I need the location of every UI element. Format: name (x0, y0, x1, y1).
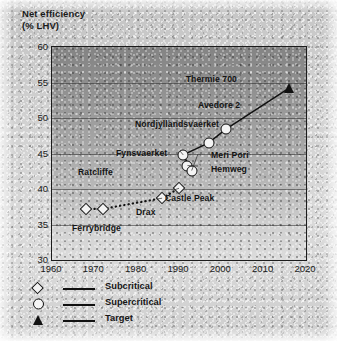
x-axis-tick-labels: 1960197019801990200020102020 (51, 263, 305, 277)
y-tick-label-45: 45 (2, 147, 48, 158)
diamond-marker-icon (31, 282, 44, 295)
y-tick-label-55: 55 (2, 76, 48, 87)
label-thermie-700: Thermie 700 (186, 74, 237, 84)
plot-area: FerrybridgeRatcliffeDraxCastle PeakFynsv… (51, 46, 307, 261)
y-tick-label-35: 35 (2, 218, 48, 229)
x-tick-label-1990: 1990 (167, 263, 188, 274)
leader-line-fynsvaerket (180, 151, 183, 155)
circle-legend-icon (33, 299, 47, 310)
label-avedore-2: Avedore 2 (198, 100, 240, 110)
diamond-legend-icon (33, 284, 47, 293)
x-tick-label-1970: 1970 (83, 263, 104, 274)
y-tick-label-50: 50 (2, 112, 48, 123)
chart-figure: Net efficiency (% LHV) 30354045505560 Fe… (0, 0, 337, 341)
legend-item-supercritical: Supercritical (33, 296, 223, 312)
y-axis-title-line-2: (% LHV) (22, 20, 59, 31)
legend-line-swatch (63, 320, 95, 322)
x-tick-label-1980: 1980 (125, 263, 146, 274)
leader-line-drax (157, 198, 162, 199)
leader-line-castle-peak (174, 188, 179, 190)
legend-label: Subcritical (105, 281, 153, 291)
circle-marker-icon (33, 299, 44, 310)
triangle-marker-icon (33, 315, 43, 325)
x-tick-label-2000: 2000 (210, 263, 231, 274)
chart-legend: SubcriticalSupercriticalTarget (33, 280, 223, 328)
label-ferrybridge: Ferrybridge (72, 223, 121, 233)
label-hemweg: Hemweg (211, 164, 247, 174)
leader-line-meri-pori (192, 154, 198, 171)
x-tick-label-2010: 2010 (252, 263, 273, 274)
label-fynsvaerket: Fynsvaerket (116, 148, 167, 158)
label-nordjyllandsvaerket: Nordjyllandsvaerket (135, 119, 219, 129)
x-tick-label-1960: 1960 (40, 263, 61, 274)
label-castle-peak: Castle Peak (165, 193, 214, 203)
x-tick-label-2020: 2020 (294, 263, 315, 274)
label-drax: Drax (136, 207, 156, 217)
legend-item-subcritical: Subcritical (33, 280, 223, 296)
legend-label: Target (105, 313, 133, 323)
legend-label: Supercritical (105, 297, 161, 307)
y-axis-tick-labels: 30354045505560 (0, 46, 48, 259)
legend-line-swatch (63, 304, 95, 306)
legend-item-target: Target (33, 312, 223, 328)
legend-line-swatch (63, 288, 95, 290)
y-tick-label-40: 40 (2, 183, 48, 194)
y-axis-title-line-1: Net efficiency (22, 8, 85, 19)
label-ratcliffe: Ratcliffe (78, 167, 113, 177)
triangle-legend-icon (33, 315, 47, 325)
y-tick-label-60: 60 (2, 41, 48, 52)
label-meri-pori: Meri Pori (211, 150, 249, 160)
